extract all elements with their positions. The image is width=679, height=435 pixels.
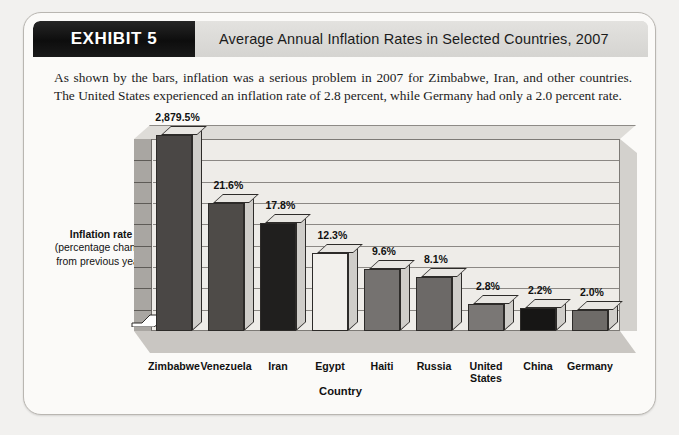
plot-left-wall <box>134 139 152 331</box>
exhibit-caption: As shown by the bars, inflation was a se… <box>54 69 632 104</box>
x-axis-title: Country <box>24 385 656 397</box>
bar[interactable]: 2.2% <box>520 308 556 331</box>
exhibit-badge: EXHIBIT 5 <box>33 21 195 57</box>
y-axis-tick <box>134 267 152 268</box>
category-label: Germany <box>559 361 621 373</box>
bar-side-face <box>400 260 410 331</box>
exhibit-card: EXHIBIT 5 Average Annual Inflation Rates… <box>23 12 656 415</box>
bar-value-label: 21.6% <box>213 179 243 191</box>
bar-value-label: 17.8% <box>265 199 295 211</box>
bar-side-face <box>244 194 254 331</box>
bar-front-face <box>208 203 244 331</box>
bar-value-label: 9.6% <box>372 245 396 257</box>
exhibit-header: EXHIBIT 5 Average Annual Inflation Rates… <box>33 21 648 57</box>
exhibit-title: Average Annual Inflation Rates in Select… <box>195 21 648 57</box>
bar-value-label: 2.0% <box>580 286 604 298</box>
bar-value-label: 12.3% <box>317 229 347 241</box>
bar-value-label: 2,879.5% <box>155 111 199 123</box>
bar-side-face <box>348 244 358 331</box>
bar-value-label: 2.2% <box>528 284 552 296</box>
bar-chart: Inflation rate (percentage change from p… <box>24 113 656 413</box>
y-axis-tick <box>134 224 152 225</box>
plot-floor <box>134 331 636 354</box>
y-axis-tick <box>134 203 152 204</box>
bar-side-face <box>452 268 462 331</box>
bar-front-face <box>572 310 608 331</box>
plot-right-depth <box>620 139 637 331</box>
bar-front-face <box>312 253 348 331</box>
plot-ceiling <box>134 125 636 140</box>
bar-front-face <box>520 308 556 331</box>
bar[interactable]: 17.8% <box>260 223 296 331</box>
bar-front-face <box>468 304 504 331</box>
bar[interactable]: 2.8% <box>468 304 504 331</box>
gridline <box>153 160 619 161</box>
bar[interactable]: 8.1% <box>416 277 452 331</box>
bar[interactable]: 9.6% <box>364 269 400 331</box>
bar[interactable]: 21.6% <box>208 203 244 331</box>
bar-side-face <box>192 126 202 331</box>
bar-value-label: 2.8% <box>476 280 500 292</box>
y-axis-tick <box>134 246 152 247</box>
y-axis-tick <box>134 160 152 161</box>
bar-value-label: 8.1% <box>424 253 448 265</box>
bar[interactable]: 2.0% <box>572 310 608 331</box>
bar-front-face <box>416 277 452 331</box>
y-axis-tick <box>134 182 152 183</box>
bar[interactable]: 12.3% <box>312 253 348 331</box>
bar-front-face <box>156 135 192 331</box>
bar-front-face <box>260 223 296 331</box>
plot-area: 2,879.5%21.6%17.8%12.3%9.6%8.1%2.8%2.2%2… <box>134 125 636 353</box>
y-axis-tick <box>134 288 152 289</box>
bar-side-face <box>296 214 306 331</box>
bar[interactable]: 2,879.5% <box>156 135 192 331</box>
bar-front-face <box>364 269 400 331</box>
